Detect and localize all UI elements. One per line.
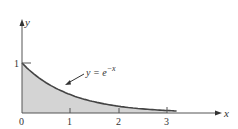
x-tick-label-1: 1 bbox=[67, 116, 72, 127]
x-tick-label-0: 0 bbox=[19, 116, 24, 127]
y-tick-label-1: 1 bbox=[14, 58, 19, 69]
x-axis-arrow-icon bbox=[215, 111, 222, 116]
annotation-leader bbox=[68, 74, 84, 83]
y-axis-label: y bbox=[24, 16, 30, 28]
function-label: y = e−x bbox=[85, 64, 116, 78]
function-label-base: y = e bbox=[85, 67, 107, 78]
x-axis-label: x bbox=[223, 107, 229, 119]
x-tick-label-2: 2 bbox=[116, 116, 121, 127]
chart: y x 1 0 1 2 3 y = e−x bbox=[0, 0, 238, 129]
x-tick-label-3: 3 bbox=[164, 116, 169, 127]
y-axis-arrow-icon bbox=[20, 19, 25, 26]
annotation-arrow-icon bbox=[65, 80, 71, 85]
function-label-exp: −x bbox=[107, 64, 116, 73]
